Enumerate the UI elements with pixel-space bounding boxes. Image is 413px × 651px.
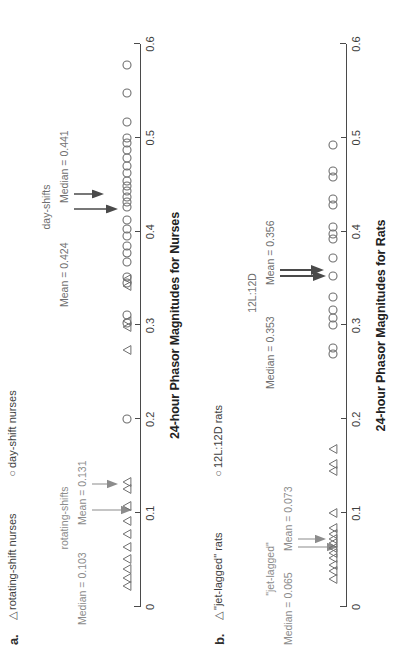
panel-a-arrow-mean-dayshift [74, 205, 118, 214]
panel-b-axis: 00.10.20.30.40.50.6 [346, 44, 347, 607]
axis-tick [341, 606, 346, 607]
data-point-circle [122, 272, 132, 282]
axis-tick [135, 137, 140, 138]
data-point-triangle [329, 459, 338, 469]
panel-b-arrow-mean-12L12D [280, 265, 324, 275]
axis-tick-label: 0.5 [350, 130, 362, 145]
panel-b-legend-label-0: "jet-lagged" rats [212, 532, 224, 610]
axis-tick [135, 418, 140, 419]
data-point-circle [122, 414, 132, 424]
panel-b-annot-12L12D-median: Median = 0.353 [264, 316, 276, 389]
axis-tick [135, 43, 140, 44]
data-point-triangle [123, 564, 132, 574]
circle-icon: ○ [212, 468, 224, 479]
panel-b-legend-jetlagged: △"jet-lagged" rats [212, 532, 225, 621]
panel-a: a. △rotating-shift nurses ○day-shift nur… [0, 0, 206, 651]
axis-tick [135, 325, 140, 326]
panel-b-legend-12L12D: ○12L:12D rats [212, 405, 224, 479]
panel-a-annot-dayshift-mean: Mean = 0.424 [58, 242, 70, 307]
circle-icon: ○ [6, 468, 18, 479]
axis-tick-label: 0 [350, 604, 362, 610]
axis-tick [341, 43, 346, 44]
data-point-circle [328, 271, 338, 281]
data-point-triangle [123, 345, 132, 355]
data-point-circle [328, 140, 338, 150]
triangle-icon: △ [6, 610, 19, 621]
panel-b-legend-label-1: 12L:12D rats [212, 405, 224, 468]
axis-tick-label: 0.5 [144, 130, 156, 145]
panel-a-annot-rotating-mean: Mean = 0.131 [76, 460, 88, 525]
axis-tick-label: 0.6 [350, 36, 362, 51]
panel-b-annot-jetlagged-median: Median = 0.065 [282, 572, 294, 645]
axis-tick [341, 137, 346, 138]
axis-tick-label: 0.4 [144, 224, 156, 239]
axis-tick [341, 325, 346, 326]
panel-a-arrow-mean-rotating [92, 480, 118, 489]
axis-tick-label: 0.3 [144, 318, 156, 333]
data-point-circle [122, 215, 132, 225]
panel-b-axis-title: 24-hour Phasor Magnitudes for Rats [374, 0, 388, 651]
panel-a-annot-rotating-title: rotating-shifts [58, 473, 70, 563]
data-point-triangle [123, 477, 132, 487]
data-point-circle [122, 133, 132, 143]
axis-tick [135, 512, 140, 513]
data-point-circle [328, 222, 338, 232]
panel-b-annot-jetlagged-mean: Mean = 0.073 [282, 486, 294, 551]
panel-a-annot-dayshift-median: Median = 0.441 [58, 130, 70, 203]
panel-a-axis: 00.10.20.30.40.50.6 [140, 44, 141, 607]
panel-b-annot-jetlagged-title: "jet-lagged" [264, 529, 276, 609]
data-point-circle [328, 343, 338, 353]
axis-tick-label: 0 [144, 604, 156, 610]
panel-a-axis-title: 24-hour Phasor Magnitudes for Nurses [168, 0, 182, 651]
data-point-circle [122, 117, 132, 127]
data-point-circle [122, 241, 132, 251]
data-point-triangle [329, 508, 338, 518]
data-point-triangle [123, 501, 132, 511]
axis-tick [341, 512, 346, 513]
panel-a-annot-dayshift-title: day-shifts [40, 167, 52, 247]
panel-b-letter: b. [212, 634, 227, 645]
axis-tick [135, 231, 140, 232]
axis-tick-label: 0.1 [144, 506, 156, 521]
data-point-circle [122, 60, 132, 70]
data-point-triangle [329, 444, 338, 454]
data-point-circle [122, 88, 132, 98]
axis-tick-label: 0.2 [350, 412, 362, 427]
data-point-circle [122, 310, 132, 320]
data-point-triangle [123, 542, 132, 552]
data-point-circle [328, 253, 338, 263]
data-point-triangle [329, 523, 338, 533]
axis-tick [135, 606, 140, 607]
axis-tick-label: 0.6 [144, 36, 156, 51]
panel-a-legend-label-1: day-shift nurses [6, 390, 18, 468]
panel-a-legend-day-shift: ○day-shift nurses [6, 390, 18, 479]
axis-tick [341, 418, 346, 419]
data-point-circle [328, 292, 338, 302]
data-point-triangle [123, 554, 132, 564]
axis-tick [341, 231, 346, 232]
triangle-icon: △ [212, 610, 225, 621]
panel-b-annot-12L12D-title: 12L:12D [246, 253, 258, 333]
figure-root: a. △rotating-shift nurses ○day-shift nur… [0, 0, 413, 651]
panel-a-legend-label-0: rotating-shift nurses [6, 513, 18, 610]
panel-a-annot-rotating-median: Median = 0.103 [76, 552, 88, 625]
data-point-triangle [123, 516, 132, 526]
panel-a-legend-rotating-shift: △rotating-shift nurses [6, 513, 19, 621]
panel-b: b. △"jet-lagged" rats ○12L:12D rats "jet… [206, 0, 412, 651]
axis-tick-label: 0.3 [350, 318, 362, 333]
panel-a-letter: a. [6, 635, 21, 645]
panel-a-arrow-median-dayshift [74, 190, 104, 199]
data-point-triangle [123, 529, 132, 539]
data-point-circle [328, 166, 338, 176]
axis-tick-label: 0.4 [350, 224, 362, 239]
axis-tick-label: 0.1 [350, 506, 362, 521]
panel-b-arrow-mean-jetlagged [298, 535, 326, 544]
data-point-circle [328, 194, 338, 204]
panel-b-annot-12L12D-mean: Mean = 0.356 [264, 220, 276, 285]
data-point-circle [328, 306, 338, 316]
axis-tick-label: 0.2 [144, 412, 156, 427]
